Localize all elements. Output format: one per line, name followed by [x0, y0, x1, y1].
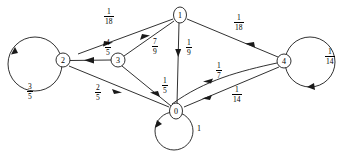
numerator: 1	[162, 77, 168, 85]
denominator: 14	[232, 96, 242, 104]
denominator: 5	[95, 94, 101, 102]
node-2-label: 2	[61, 56, 65, 65]
node-4[interactable]: 4	[277, 54, 291, 68]
edge-label-1-to-4: 1 18	[234, 14, 244, 31]
edge-label-1-to-3: 7 9	[152, 38, 158, 55]
denominator: 9	[152, 48, 158, 56]
denominator: 18	[234, 24, 244, 32]
numerator: 7	[152, 38, 158, 46]
edge-0-to-2	[69, 66, 169, 107]
denominator: 5	[162, 87, 168, 95]
denominator: 14	[325, 58, 335, 66]
denominator: 18	[104, 18, 114, 26]
edge-1-to-4	[187, 19, 278, 57]
self-loop-label-4: 1 14	[325, 48, 335, 65]
arrowhead-self-loop-2	[11, 47, 18, 55]
edge-1-to-3	[124, 21, 174, 56]
self-loop-label-2: 3 5	[27, 83, 33, 100]
node-0[interactable]: 0	[170, 103, 183, 119]
self-loop-label-0: 1	[197, 124, 201, 133]
edge-1-to-0	[175, 23, 181, 104]
denominator: 5	[105, 49, 111, 57]
arrowhead-self-loop-0	[155, 120, 162, 128]
numerator: 1	[325, 48, 335, 56]
arrowhead-1-to-0	[175, 49, 181, 57]
edge-label-3-to-2: 4 5	[105, 39, 111, 56]
edge-1-to-2	[78, 19, 173, 54]
node-1[interactable]: 1	[174, 7, 187, 23]
node-3[interactable]: 3	[111, 53, 125, 67]
edge-label-0-to-2: 2 5	[95, 84, 101, 101]
node-2[interactable]: 2	[56, 53, 70, 67]
edge-label-4-to-0: 1 7	[216, 62, 222, 79]
edge-label-1-to-0: 1 9	[186, 39, 192, 56]
arrowhead-self-loop-4	[307, 83, 315, 90]
denominator: 7	[216, 72, 222, 80]
graph-diagram: 2 3 1 4 0 1 18 4 5 7 9	[0, 0, 349, 151]
node-4-label: 4	[282, 57, 286, 66]
numerator: 1	[216, 62, 222, 70]
graph-canvas: 2 3 1 4 0	[0, 0, 349, 151]
edge-3-to-2	[70, 57, 111, 64]
numerator: 2	[95, 84, 101, 92]
denominator: 5	[27, 93, 33, 101]
numerator: 1	[104, 8, 114, 16]
edge-label-3-to-0: 1 5	[162, 77, 168, 94]
node-1-label: 1	[178, 11, 182, 20]
edge-label-0-to-4: 1 14	[232, 86, 242, 103]
numerator: 4	[105, 39, 111, 47]
denominator: 9	[186, 49, 192, 57]
node-0-label: 0	[174, 107, 178, 116]
edge-label-1-to-2: 1 18	[104, 8, 114, 25]
arrowhead-3-to-0	[150, 91, 160, 97]
arrowhead-1-to-4	[245, 42, 255, 48]
self-loop-2	[8, 37, 62, 91]
numerator: 1	[186, 39, 192, 47]
node-3-label: 3	[116, 56, 120, 65]
arrowhead-3-to-2	[84, 57, 94, 64]
numerator: 1	[232, 86, 242, 94]
edge-4-to-0	[172, 63, 277, 104]
numerator: 1	[234, 14, 244, 22]
arrowhead-0-to-2	[112, 89, 122, 94]
arrowhead-4-to-0	[203, 79, 213, 84]
numerator: 3	[27, 83, 33, 91]
